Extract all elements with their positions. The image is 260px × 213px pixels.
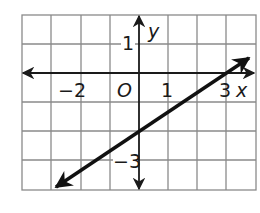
origin-label: O <box>117 79 132 101</box>
y-tick-label-neg3: −3 <box>113 150 141 172</box>
x-tick-label-neg2: −2 <box>58 79 86 101</box>
coordinate-graph: 1 y −2 O 1 3 x −3 <box>0 0 260 213</box>
y-tick-label-1: 1 <box>122 32 134 54</box>
y-axis-label: y <box>147 20 160 42</box>
x-tick-label-3: 3 <box>219 79 231 101</box>
x-axis-label: x <box>235 79 248 101</box>
x-tick-label-1: 1 <box>161 79 173 101</box>
plotted-line <box>56 58 249 187</box>
